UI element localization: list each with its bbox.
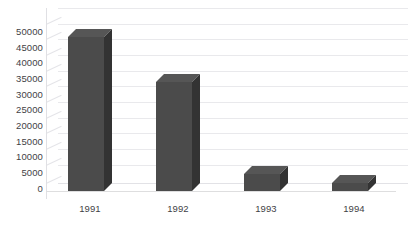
x-axis-line (46, 191, 396, 192)
x-axis-tick-label: 1994 (326, 203, 382, 214)
plot-area (46, 0, 408, 229)
bar-front-face (156, 82, 192, 191)
bar-side-face (104, 29, 112, 191)
y-axis-tick-label: 10000 (16, 152, 43, 162)
bar-1992[interactable] (156, 74, 200, 191)
y-axis-tick-label: 5000 (21, 168, 43, 178)
y-axis-line (46, 8, 47, 199)
y-axis-tick-label: 50000 (16, 27, 43, 37)
bar-front-face (332, 183, 368, 191)
x-axis-tick-label: 1991 (62, 203, 118, 214)
y-axis-tick-label: 40000 (16, 58, 43, 68)
x-axis: 1991 1992 1993 1994 (46, 203, 408, 223)
y-axis-tick-label: 30000 (16, 90, 43, 100)
gridline (58, 8, 408, 9)
floor (46, 191, 408, 200)
bar-side-face (192, 74, 200, 191)
column-chart-3d: 50000 45000 40000 35000 30000 25000 2000… (0, 0, 408, 229)
bar-1993[interactable] (244, 166, 288, 191)
bar-front-face (244, 174, 280, 191)
y-axis-tick-label: 15000 (16, 137, 43, 147)
y-axis-tick-label: 20000 (16, 121, 43, 131)
x-axis-tick-label: 1992 (150, 203, 206, 214)
y-axis: 50000 45000 40000 35000 30000 25000 2000… (0, 0, 46, 229)
bar-1994[interactable] (332, 175, 376, 191)
y-axis-tick-label: 0 (38, 184, 43, 194)
y-axis-tick-label: 35000 (16, 74, 43, 84)
y-axis-tick-label: 45000 (16, 43, 43, 53)
bar-front-face (68, 37, 104, 191)
gridline (58, 24, 408, 25)
y-axis-tick-label: 25000 (16, 105, 43, 115)
bar-1991[interactable] (68, 29, 112, 191)
x-axis-tick-label: 1993 (238, 203, 294, 214)
